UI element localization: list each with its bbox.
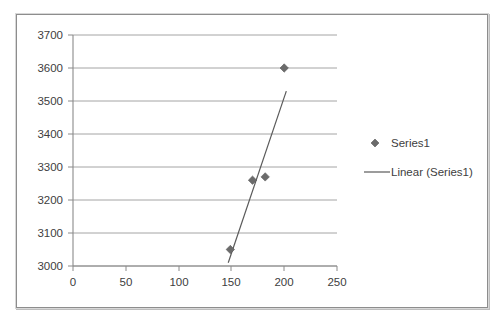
scatter-plot: 3700 3600 3500 3400 3300 3200 3100 3000: [17, 15, 487, 307]
y-tick-label-3200: 3200: [37, 194, 63, 206]
data-point-marker: [280, 64, 288, 72]
data-points: [226, 64, 288, 254]
y-tick-label-3700: 3700: [37, 29, 63, 41]
chart-figure: 3700 3600 3500 3400 3300 3200 3100 3000: [0, 0, 504, 323]
data-point-marker: [261, 173, 269, 181]
legend-label-linear-series1: Linear (Series1): [391, 166, 473, 178]
legend-entry-series1[interactable]: Series1: [371, 137, 430, 149]
y-tick-labels: 3700 3600 3500 3400 3300 3200 3100 3000: [37, 29, 63, 272]
y-tick-label-3300: 3300: [37, 161, 63, 173]
legend-diamond-icon: [371, 139, 379, 147]
x-tick-labels: 0 50 100 150 200 250: [70, 276, 347, 288]
y-tick-label-3600: 3600: [37, 62, 63, 74]
y-axis: [68, 35, 73, 266]
trendline-group: [228, 91, 286, 263]
y-tick-label-3500: 3500: [37, 95, 63, 107]
x-tick-label-200: 200: [274, 276, 293, 288]
chart-legend: Series1 Linear (Series1): [364, 137, 473, 178]
linear-trendline: [228, 91, 286, 263]
x-tick-label-150: 150: [221, 276, 240, 288]
x-axis: [73, 266, 337, 271]
y-tick-label-3400: 3400: [37, 128, 63, 140]
y-tick-label-3000: 3000: [37, 260, 63, 272]
legend-label-series1: Series1: [391, 137, 430, 149]
chart-frame: 3700 3600 3500 3400 3300 3200 3100 3000: [16, 14, 488, 308]
gridlines: [73, 35, 337, 266]
legend-entry-linear-series1[interactable]: Linear (Series1): [364, 166, 473, 178]
x-tick-label-250: 250: [327, 276, 346, 288]
x-tick-label-50: 50: [120, 276, 133, 288]
x-tick-label-100: 100: [169, 276, 188, 288]
x-tick-label-0: 0: [70, 276, 76, 288]
y-tick-label-3100: 3100: [37, 227, 63, 239]
